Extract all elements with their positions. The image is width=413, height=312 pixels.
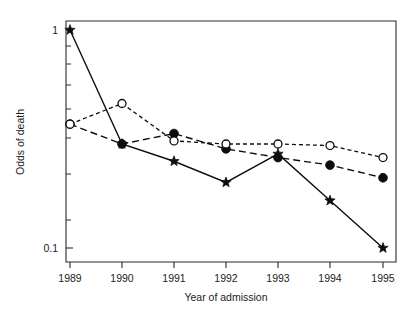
marker-open-circle-1990: [118, 100, 126, 108]
y-axis-title: Odds of death: [14, 109, 26, 175]
chart-figure: 1 0.1 Odds of death 1989 1990 1991 1992 …: [0, 0, 413, 312]
y-tick-label-0-1: 0.1: [43, 242, 58, 254]
marker-open-circle-1993: [274, 140, 282, 148]
x-axis-title: Year of admission: [184, 291, 267, 303]
marker-filled-circle-1995: [379, 173, 388, 182]
x-tick-label-1990: 1990: [110, 272, 134, 284]
y-tick-label-1: 1: [52, 24, 58, 36]
x-tick-label-1989: 1989: [58, 272, 82, 284]
x-tick-label-1993: 1993: [266, 272, 290, 284]
x-tick-label-1992: 1992: [214, 272, 238, 284]
x-tick-label-1995: 1995: [371, 272, 395, 284]
x-tick-label-1991: 1991: [162, 272, 186, 284]
odds-of-death-line-chart: 1 0.1 Odds of death 1989 1990 1991 1992 …: [0, 0, 413, 312]
chart-background: [0, 0, 413, 312]
marker-filled-circle-1993: [274, 153, 283, 162]
x-tick-label-1994: 1994: [318, 272, 342, 284]
marker-filled-circle-1994: [326, 161, 335, 170]
marker-open-circle-1989: [66, 120, 74, 128]
marker-open-circle-1995: [379, 154, 387, 162]
marker-open-circle-1992: [222, 140, 230, 148]
marker-filled-circle-1990: [118, 140, 127, 149]
marker-open-circle-1994: [326, 142, 334, 150]
marker-open-circle-1991: [170, 137, 178, 145]
